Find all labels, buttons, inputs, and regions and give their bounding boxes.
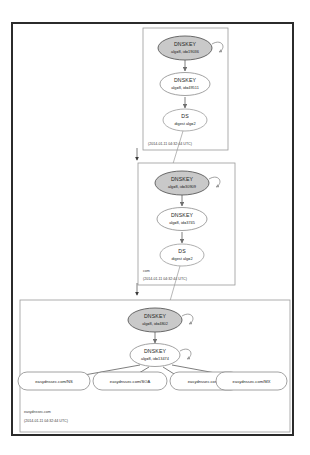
- rrset-node-ns[interactable]: easydnssec.com/NS: [18, 372, 90, 390]
- node-com-ksk[interactable]: DNSKEY alg=8, id=30909: [155, 171, 209, 195]
- node-child-zsk-title: DNSKEY: [144, 348, 167, 354]
- node-com-ksk-title: DNSKEY: [171, 176, 194, 182]
- node-root-zsk[interactable]: DNSKEY alg=8, id=49511: [160, 73, 210, 96]
- zone-easydnssec-name: easydnssec.com: [24, 410, 51, 414]
- node-child-zsk[interactable]: DNSKEY alg=8, id=13474: [130, 344, 180, 367]
- rrset-label-soa: easydnssec.com/SOA: [110, 379, 151, 384]
- node-root-zsk-title: DNSKEY: [174, 77, 197, 83]
- node-root-ksk-title: DNSKEY: [174, 41, 197, 47]
- zone-com-timestamp: (2014-01-11 04:32:44 UTC): [143, 277, 187, 281]
- node-com-zsk[interactable]: DNSKEY alg=8, id=3745: [157, 208, 207, 231]
- zone-easydnssec-timestamp: (2014-01-11 04:32:44 UTC): [24, 419, 68, 423]
- node-com-ds-subtitle: digest alg=2: [171, 256, 192, 261]
- node-child-ksk-title: DNSKEY: [144, 313, 167, 319]
- node-root-ksk-subtitle: alg=8, id=19036: [171, 49, 199, 54]
- node-com-zsk-subtitle: alg=8, id=3745: [169, 220, 195, 225]
- node-root-zsk-subtitle: alg=8, id=49511: [171, 85, 199, 90]
- rrset-label-mx: easydnssec.com/MX: [233, 379, 271, 384]
- rrset-label-ns: easydnssec.com/NS: [35, 379, 73, 384]
- node-root-ksk[interactable]: DNSKEY alg=8, id=19036: [158, 36, 212, 60]
- zone-com-name: com: [143, 269, 150, 273]
- node-com-ksk-subtitle: alg=8, id=30909: [168, 184, 196, 189]
- dnssec-chain-diagram: DNSKEY alg=8, id=19036 DNSKEY alg=8, id=…: [0, 0, 310, 455]
- rrset-node-soa[interactable]: easydnssec.com/SOA: [93, 372, 167, 390]
- node-root-ds-subtitle: digest alg=2: [174, 121, 195, 126]
- node-child-ksk[interactable]: DNSKEY alg=8, id=4802: [128, 308, 182, 332]
- node-com-ds[interactable]: DS digest alg=2: [160, 244, 204, 266]
- node-com-ds-title: DS: [178, 248, 186, 254]
- rrset-node-mx[interactable]: easydnssec.com/MX: [216, 372, 287, 390]
- diagram-page: DNSKEY alg=8, id=19036 DNSKEY alg=8, id=…: [0, 0, 310, 455]
- node-com-zsk-title: DNSKEY: [171, 212, 194, 218]
- node-child-ksk-subtitle: alg=8, id=4802: [142, 321, 168, 326]
- node-root-ds[interactable]: DS digest alg=2: [163, 109, 207, 131]
- node-root-ds-title: DS: [181, 113, 189, 119]
- zone-root-timestamp: (2014-01-11 04:32:44 UTC): [148, 142, 192, 146]
- node-child-zsk-subtitle: alg=8, id=13474: [141, 356, 170, 361]
